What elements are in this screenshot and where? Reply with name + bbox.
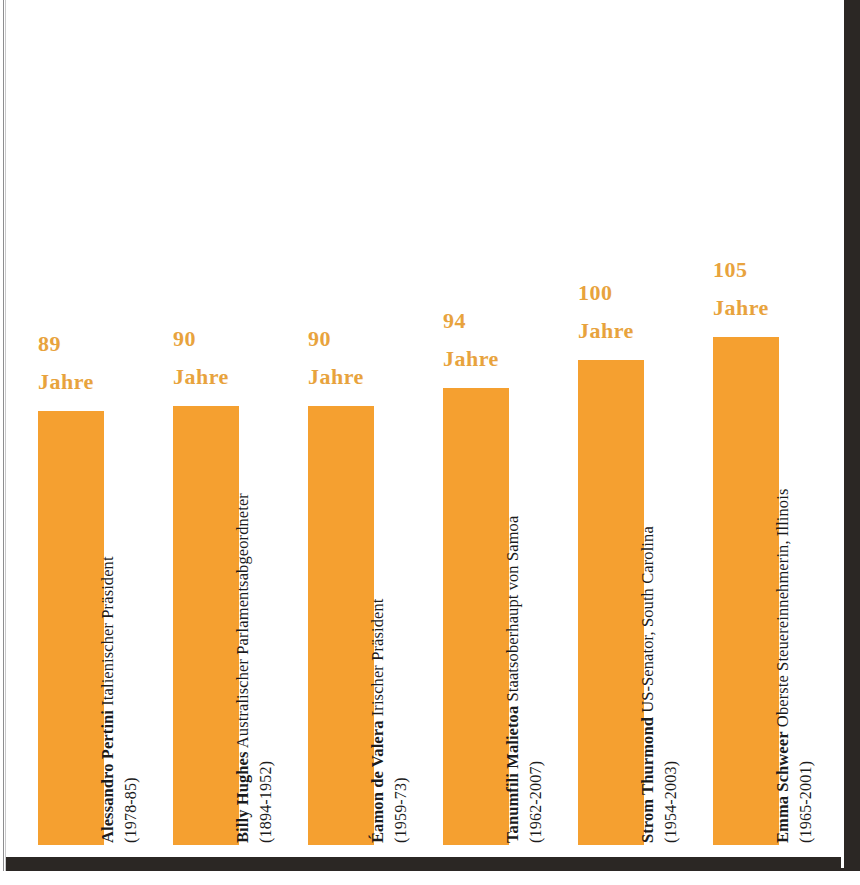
bar-category-name: Strom Thurmond US-Senator, South Carolin… [638,526,658,843]
bar-value-unit: Jahre [38,363,94,401]
bar-value-unit: Jahre [713,289,769,327]
person-dates: (1959-73) [392,777,410,843]
bar-category-name: Tanumfili Malietoa Staatsoberhaupt von S… [503,516,523,843]
person-role: Italienischer Präsident [98,556,117,710]
bar[interactable] [38,411,104,845]
bar-category-name: Billy Hughes Australischer Parlamentsabg… [233,493,253,843]
person-role: Irischer Präsident [368,599,387,721]
bar-chart-plot-area: 89Jahre90Jahre90Jahre94Jahre100Jahre105J… [0,0,844,845]
person-role: Staatsoberhaupt von Samoa [503,516,522,706]
bar-value-unit: Jahre [173,358,229,396]
bar[interactable] [173,406,239,845]
bar-value-label: 90Jahre [308,320,364,396]
bar-category-name: Emma Schweer Oberste Steuereinnehmerin, … [773,489,793,843]
person-name: Emma Schweer [773,731,792,843]
bar-value-label: 94Jahre [443,302,499,378]
bar-value-number: 100 [578,274,634,312]
bar[interactable] [443,388,509,845]
person-name: Strom Thurmond [638,717,657,843]
bar-value-unit: Jahre [308,358,364,396]
bar-value-number: 94 [443,302,499,340]
page-right-edge-band [844,0,860,885]
bar-value-number: 105 [713,251,769,289]
person-dates: (1962-2007) [527,761,545,843]
person-dates: (1954-2003) [662,761,680,843]
bar-value-label: 90Jahre [173,320,229,396]
bar-value-label: 100Jahre [578,274,634,350]
person-name: Billy Hughes [233,751,252,843]
page-bottom-edge-band [6,857,844,871]
person-dates: (1965-2001) [797,761,815,843]
bar-value-unit: Jahre [578,312,634,350]
bar-value-label: 89Jahre [38,325,94,401]
person-name: Alessandro Pertini [98,710,117,843]
person-dates: (1978-85) [122,777,140,843]
bar-value-number: 90 [173,320,229,358]
person-name: Éamon de Valera [368,720,387,843]
bar[interactable] [308,406,374,845]
person-role: Australischer Parlamentsabgeordneter [233,493,252,751]
page-bottom-outer-margin [0,871,860,885]
bar[interactable] [713,337,779,845]
person-role: Oberste Steuereinnehmerin, Illinois [773,489,792,732]
bar-value-unit: Jahre [443,340,499,378]
scanned-page: 89Jahre90Jahre90Jahre94Jahre100Jahre105J… [0,0,860,885]
bar-value-number: 90 [308,320,364,358]
bar-value-label: 105Jahre [713,251,769,327]
person-name: Tanumfili Malietoa [503,706,522,843]
bar[interactable] [578,360,644,845]
bar-category-name: Alessandro Pertini Italienischer Präside… [98,556,118,843]
bar-value-number: 89 [38,325,94,363]
person-role: US-Senator, South Carolina [638,526,657,717]
person-dates: (1894-1952) [257,761,275,843]
bar-category-name: Éamon de Valera Irischer Präsident [368,599,388,843]
